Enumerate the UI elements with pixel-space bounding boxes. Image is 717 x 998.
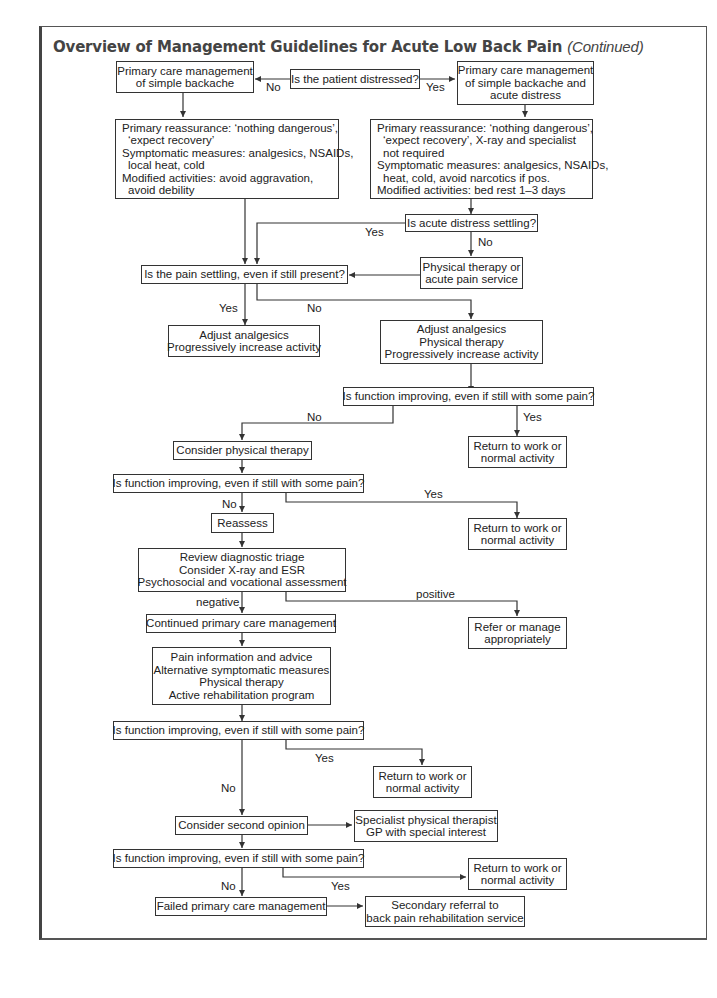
node-text: Refer or manage xyxy=(474,621,560,634)
node-refer: Refer or manage appropriately xyxy=(468,617,567,649)
node-text: Return to work or xyxy=(378,770,466,783)
node-text: acute distress xyxy=(490,89,561,102)
node-text: Return to work or xyxy=(473,440,561,453)
node-text: Alternative symptomatic measures xyxy=(154,664,330,677)
node-q-function-2: Is function improving, even if still wit… xyxy=(113,474,364,493)
label-function3-no: No xyxy=(221,782,236,794)
label-function4-yes: Yes xyxy=(331,880,350,892)
node-text: Is function improving, even if still wit… xyxy=(343,390,595,403)
node-text: Primary reassurance: ‘nothing dangerous’… xyxy=(122,122,338,135)
node-text: Is the patient distressed? xyxy=(291,73,419,86)
node-text: Psychosocial and vocational assessment xyxy=(137,576,346,589)
node-text: Continued primary care management xyxy=(146,617,336,630)
node-text: normal activity xyxy=(481,534,555,547)
node-text: back pain rehabilitation service xyxy=(366,912,523,925)
node-text: Physical therapy xyxy=(199,676,283,689)
node-text: Consider second opinion xyxy=(178,819,305,832)
node-text: ‘expect recovery’, X-ray and specialist xyxy=(377,134,576,147)
label-pain-settling-no: No xyxy=(307,302,322,314)
node-text: Is acute distress settling? xyxy=(407,217,536,230)
node-return-to-work-2: Return to work or normal activity xyxy=(468,518,567,550)
label-review-positive: positive xyxy=(416,588,455,600)
label-review-negative: negative xyxy=(196,596,239,608)
node-text: normal activity xyxy=(481,874,555,887)
node-text: Consider physical therapy xyxy=(176,444,308,457)
label-function4-no: No xyxy=(221,880,236,892)
label-function3-yes: Yes xyxy=(315,752,334,764)
node-text: Primary care management xyxy=(117,65,253,78)
node-text: ‘expect recovery’ xyxy=(122,134,214,147)
node-text: Adjust analgesics xyxy=(417,323,507,336)
label-distress-settling-yes: Yes xyxy=(365,226,384,238)
node-text: Physical therapy or xyxy=(423,261,521,274)
node-pc-simple: Primary care management of simple backac… xyxy=(116,61,254,93)
node-review: Review diagnostic triage Consider X-ray … xyxy=(138,548,346,592)
node-text: Primary reassurance: ‘nothing dangerous’… xyxy=(377,122,593,135)
node-pt-acute: Physical therapy or acute pain service xyxy=(420,257,523,289)
node-text: heat, cold, avoid narcotics if pos. xyxy=(377,172,550,185)
node-return-to-work-4: Return to work or normal activity xyxy=(468,858,567,890)
node-q-function-4: Is function improving, even if still wit… xyxy=(113,849,364,868)
node-q-distressed: Is the patient distressed? xyxy=(290,69,420,89)
node-advice-simple: Primary reassurance: ‘nothing dangerous’… xyxy=(115,119,339,199)
node-advice-distress: Primary reassurance: ‘nothing dangerous’… xyxy=(370,119,593,199)
node-consider-pt: Consider physical therapy xyxy=(173,441,312,460)
node-second-opinion: Consider second opinion xyxy=(175,816,308,835)
node-q-distress-settling: Is acute distress settling? xyxy=(405,214,538,232)
node-text: GP with special interest xyxy=(366,826,486,839)
node-text: Progressively increase activity xyxy=(384,348,538,361)
node-q-function-1: Is function improving, even if still wit… xyxy=(343,387,594,406)
node-pain-info: Pain information and advice Alternative … xyxy=(152,647,331,705)
node-text: Adjust analgesics xyxy=(199,329,289,342)
node-pc-distress: Primary care management of simple backac… xyxy=(457,61,594,105)
node-text: Physical therapy xyxy=(419,336,503,349)
node-text: of simple backache and xyxy=(465,77,586,90)
label-distress-settling-no: No xyxy=(478,236,493,248)
node-text: acute pain service xyxy=(425,273,518,286)
node-text: Review diagnostic triage xyxy=(180,551,305,564)
node-text: Is the pain settling, even if still pres… xyxy=(144,268,345,281)
label-distressed-no: No xyxy=(266,81,281,93)
label-function1-yes: Yes xyxy=(523,411,542,423)
node-text: local heat, cold xyxy=(122,159,205,172)
node-specialist: Specialist physical therapist GP with sp… xyxy=(354,810,498,842)
node-text: Modified activities: avoid aggravation, xyxy=(122,172,313,185)
node-q-pain-settling: Is the pain settling, even if still pres… xyxy=(141,265,348,284)
node-text: Specialist physical therapist xyxy=(355,814,496,827)
node-text: of simple backache xyxy=(136,77,234,90)
node-text: Return to work or xyxy=(473,862,561,875)
node-q-function-3: Is function improving, even if still wit… xyxy=(113,721,364,740)
node-text: Failed primary care management xyxy=(157,900,326,913)
node-text: Primary care management xyxy=(458,64,594,77)
node-text: Active rehabilitation program xyxy=(169,689,315,702)
node-adjust-a: Adjust analgesics Progressively increase… xyxy=(168,325,320,357)
node-text: Progressively increase activity xyxy=(167,341,321,354)
node-adjust-b: Adjust analgesics Physical therapy Progr… xyxy=(380,320,543,364)
node-failed-pc: Failed primary care management xyxy=(155,897,327,916)
node-reassess: Reassess xyxy=(211,513,274,533)
node-text: Secondary referral to xyxy=(391,899,498,912)
node-text: normal activity xyxy=(386,782,460,795)
node-text: Consider X-ray and ESR xyxy=(179,564,305,577)
node-text: Return to work or xyxy=(473,522,561,535)
node-text: Modified activities: bed rest 1–3 days xyxy=(377,184,566,197)
node-text: Symptomatic measures: analgesics, NSAIDs… xyxy=(377,159,608,172)
node-text: not required xyxy=(377,147,444,160)
node-text: Is function improving, even if still wit… xyxy=(113,724,365,737)
node-text: Pain information and advice xyxy=(171,651,313,664)
label-pain-settling-yes: Yes xyxy=(219,302,238,314)
label-function2-yes: Yes xyxy=(424,488,443,500)
node-text: Is function improving, even if still wit… xyxy=(113,852,365,865)
node-text: Reassess xyxy=(217,517,268,530)
label-distressed-yes: Yes xyxy=(426,81,445,93)
node-return-to-work-3: Return to work or normal activity xyxy=(373,766,472,798)
label-function2-no: No xyxy=(222,498,237,510)
node-text: Symptomatic measures: analgesics, NSAIDs… xyxy=(122,147,353,160)
node-return-to-work-1: Return to work or normal activity xyxy=(468,436,567,468)
node-continued-pc: Continued primary care management xyxy=(146,614,336,633)
node-text: Is function improving, even if still wit… xyxy=(113,477,365,490)
node-text: avoid debility xyxy=(122,184,194,197)
node-text: normal activity xyxy=(481,452,555,465)
label-function1-no: No xyxy=(307,411,322,423)
node-text: appropriately xyxy=(484,633,550,646)
